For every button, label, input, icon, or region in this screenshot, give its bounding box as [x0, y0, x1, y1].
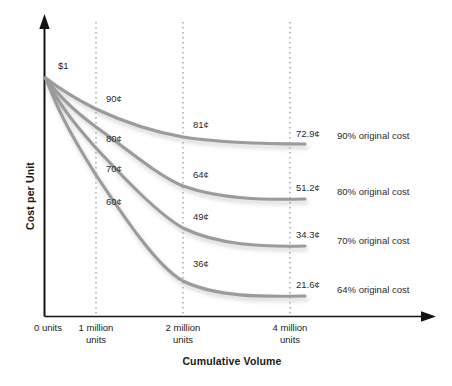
- start-value-label: $1: [58, 60, 69, 71]
- point-label-36-cents: 36¢: [193, 258, 209, 269]
- x-axis-title: Cumulative Volume: [152, 355, 312, 367]
- point-label-90-cents: 90¢: [106, 93, 122, 104]
- point-label-81-cents: 81¢: [193, 119, 209, 130]
- point-label-49-cents: 49¢: [193, 211, 209, 222]
- point-label-60-cents: 60¢: [106, 196, 122, 207]
- legend-item-70-percent: 70% original cost: [337, 235, 409, 246]
- curve-80-percent: [46, 78, 306, 199]
- point-label-51-2-cents: 51.2¢: [296, 182, 320, 193]
- y-axis-arrowhead: [39, 14, 49, 29]
- point-label-64-cents: 64¢: [193, 169, 209, 180]
- x-tick-4-million-line2: units: [255, 334, 325, 346]
- point-label-80-cents: 80¢: [106, 133, 122, 144]
- legend-item-90-percent: 90% original cost: [337, 130, 409, 141]
- point-label-21-6-cents: 21.6¢: [296, 279, 320, 290]
- x-tick-1-million-line1: 1 million: [61, 322, 131, 334]
- y-axis-title: Cost per Unit: [24, 148, 36, 244]
- legend-item-80-percent: 80% original cost: [337, 186, 409, 197]
- x-tick-2-million: 2 million units: [148, 322, 218, 345]
- point-label-70-cents: 70¢: [106, 163, 122, 174]
- y-axis: [39, 14, 49, 317]
- legend-item-64-percent: 64% original cost: [337, 284, 409, 295]
- point-label-72-9-cents: 72.9¢: [296, 128, 320, 139]
- curve-64-percent: [46, 78, 306, 296]
- x-tick-1-million: 1 million units: [61, 322, 131, 345]
- x-tick-1-million-line2: units: [61, 334, 131, 346]
- x-tick-2-million-line2: units: [148, 334, 218, 346]
- experience-curve-chart: Cost per Unit Cumulative Volume $1 0 uni…: [0, 0, 452, 386]
- x-tick-2-million-line1: 2 million: [148, 322, 218, 334]
- x-axis: [45, 311, 437, 321]
- point-label-34-3-cents: 34.3¢: [296, 229, 320, 240]
- x-axis-arrowhead: [421, 311, 436, 321]
- x-tick-4-million-line1: 4 million: [255, 322, 325, 334]
- x-tick-4-million: 4 million units: [255, 322, 325, 345]
